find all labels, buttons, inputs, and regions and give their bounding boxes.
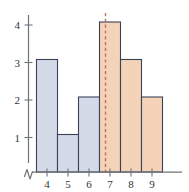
histogram-chart: 4 3 2 1 4 5 6 7 8 9 <box>0 0 189 192</box>
bar-4 <box>37 60 58 173</box>
bar-5 <box>58 135 79 173</box>
x-tick-label-7: 7 <box>107 178 113 190</box>
x-tick-label-8: 8 <box>128 178 134 190</box>
histogram-svg: 4 3 2 1 4 5 6 7 8 9 <box>0 0 189 192</box>
x-tick-label-9: 9 <box>149 178 155 190</box>
x-tick-label-5: 5 <box>65 178 71 190</box>
bar-6 <box>79 97 100 172</box>
y-tick-label-2: 2 <box>15 94 21 106</box>
x-tick-label-6: 6 <box>86 178 92 190</box>
bar-8 <box>121 60 142 173</box>
x-tick-label-4: 4 <box>44 178 50 190</box>
y-tick-label-4: 4 <box>15 19 21 31</box>
y-tick-label-1: 1 <box>15 132 21 144</box>
bar-9 <box>142 97 163 172</box>
bar-7 <box>100 22 121 172</box>
y-tick-label-3: 3 <box>15 57 21 69</box>
